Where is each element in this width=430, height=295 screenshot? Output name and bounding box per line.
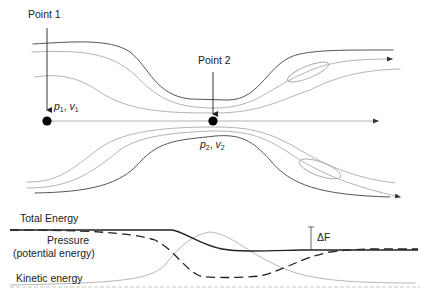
point2-v-sub: 2 — [221, 144, 225, 151]
point2-label: Point 2 — [198, 55, 231, 66]
point1-dot — [42, 116, 51, 125]
point1-v-sub: 1 — [75, 106, 79, 113]
upper-streamlines — [32, 42, 400, 113]
pressure-label: Pressure — [31, 235, 105, 246]
pressure-sublabel: (potential energy) — [13, 248, 95, 259]
delta-f-label: ΔF — [317, 232, 330, 243]
point1-label: Point 1 — [28, 9, 61, 20]
lower-eddy — [297, 155, 343, 183]
point2-dot — [208, 116, 217, 125]
point2-vars: p2, v2 — [200, 139, 225, 151]
lower-streamline-1 — [27, 127, 395, 183]
kinetic-energy-label: Kinetic energy — [16, 273, 83, 284]
total-energy-label: Total Energy — [20, 213, 78, 224]
upper-eddy — [285, 58, 330, 86]
upper-streamline-3 — [35, 69, 400, 113]
point1-vars: p1, v1 — [54, 101, 79, 113]
